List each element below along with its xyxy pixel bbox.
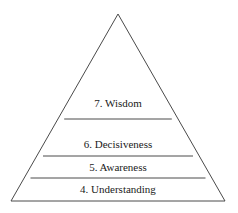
- level-wisdom-label: 7. Wisdom: [94, 97, 142, 109]
- level-decisiveness-label: 6. Decisiveness: [84, 138, 152, 150]
- level-awareness-label: 5. Awareness: [89, 161, 147, 173]
- pyramid-diagram: 7. Wisdom 6. Decisiveness 5. Awareness 4…: [0, 0, 238, 213]
- level-understanding-label: 4. Understanding: [80, 183, 156, 195]
